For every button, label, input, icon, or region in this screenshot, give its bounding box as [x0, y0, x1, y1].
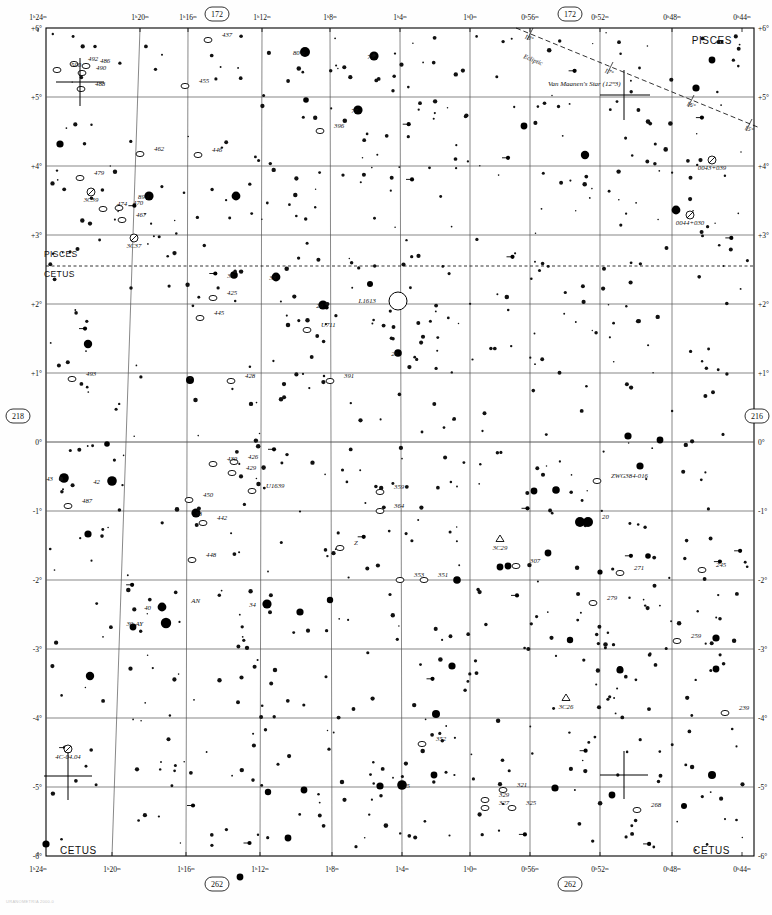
star	[272, 360, 274, 362]
deep-sky-object[interactable]	[316, 128, 324, 133]
deep-sky-object[interactable]	[194, 152, 202, 157]
deep-sky-object[interactable]	[303, 327, 311, 332]
deep-sky-object[interactable]	[82, 63, 90, 68]
deep-sky-object[interactable]	[673, 638, 681, 643]
star	[448, 662, 455, 669]
deep-sky-object[interactable]	[64, 745, 72, 753]
chart-number-top-right[interactable]: 172	[558, 7, 582, 21]
star	[327, 730, 328, 731]
star	[318, 171, 321, 174]
star	[697, 610, 699, 612]
star	[357, 266, 360, 269]
deep-sky-object[interactable]	[248, 488, 256, 493]
deep-sky-object[interactable]	[512, 563, 520, 568]
deep-sky-object[interactable]	[136, 151, 144, 156]
star	[243, 503, 246, 506]
star	[54, 569, 56, 571]
star	[50, 181, 54, 185]
star	[261, 705, 264, 708]
deep-sky-object[interactable]	[389, 292, 407, 310]
deep-sky-object[interactable]	[118, 217, 126, 222]
chart-number-bottom-right[interactable]: 262	[558, 877, 582, 891]
ra-tick-label-top: 1ʰ24ᵐ	[29, 13, 47, 22]
deep-sky-label: ZWG384-016	[611, 472, 649, 479]
star	[481, 430, 483, 432]
deep-sky-object[interactable]	[209, 295, 217, 300]
star	[686, 159, 690, 163]
star	[523, 647, 526, 650]
deep-sky-object[interactable]	[77, 86, 85, 91]
ra-tick-label-bottom: 1ʰ0ᵐ	[463, 865, 477, 874]
star	[657, 219, 659, 221]
deep-sky-object[interactable]	[418, 741, 426, 746]
ra-tick-label-bottom: 0ʰ44ᵐ	[733, 865, 751, 874]
star	[197, 435, 199, 437]
star	[652, 846, 655, 849]
star	[653, 162, 657, 166]
deep-sky-object[interactable]	[481, 797, 489, 802]
deep-sky-object[interactable]	[53, 67, 61, 72]
deep-sky-object[interactable]	[396, 577, 404, 582]
deep-sky-object[interactable]	[698, 567, 706, 572]
deep-sky-object[interactable]	[508, 805, 516, 810]
deep-sky-object[interactable]	[199, 520, 207, 525]
deep-sky-object[interactable]	[708, 156, 716, 164]
star	[719, 797, 723, 801]
chart-number-top[interactable]: 172	[205, 7, 229, 21]
deep-sky-object[interactable]	[228, 470, 236, 475]
deep-sky-label: 245	[716, 561, 727, 568]
deep-sky-object[interactable]	[78, 70, 86, 75]
star	[688, 197, 692, 201]
deep-sky-object[interactable]	[185, 497, 193, 502]
star	[60, 838, 63, 841]
star	[557, 105, 560, 108]
deep-sky-object[interactable]	[130, 234, 138, 242]
star	[144, 45, 148, 49]
star	[292, 294, 296, 298]
deep-sky-object[interactable]	[227, 378, 235, 383]
deep-sky-object[interactable]	[376, 508, 384, 513]
star	[505, 295, 510, 300]
deep-sky-object[interactable]	[209, 461, 217, 466]
deep-sky-label: 442	[217, 514, 228, 521]
deep-sky-object[interactable]	[593, 478, 601, 483]
deep-sky-object[interactable]	[87, 188, 95, 196]
deep-sky-object[interactable]	[336, 545, 344, 550]
star	[689, 350, 692, 353]
deep-sky-object[interactable]	[76, 175, 84, 180]
star	[175, 232, 178, 235]
deep-sky-object[interactable]	[99, 206, 107, 211]
star	[433, 118, 435, 120]
deep-sky-object[interactable]	[376, 489, 384, 494]
star	[672, 206, 681, 215]
star	[178, 621, 180, 623]
deep-sky-object[interactable]	[326, 378, 334, 383]
star	[401, 458, 403, 460]
star	[158, 603, 167, 612]
chart-number-left[interactable]: 218	[6, 409, 30, 423]
star	[425, 718, 427, 720]
deep-sky-object[interactable]	[196, 315, 204, 320]
deep-sky-object[interactable]	[589, 600, 597, 605]
chart-number-right[interactable]: 216	[745, 409, 769, 423]
star	[496, 451, 500, 455]
deep-sky-object[interactable]	[420, 577, 428, 582]
chart-number-bottom[interactable]: 262	[205, 877, 229, 891]
star	[718, 617, 722, 621]
deep-sky-object[interactable]	[188, 557, 196, 562]
star	[582, 760, 584, 762]
star	[302, 703, 305, 706]
deep-sky-object[interactable]	[721, 710, 729, 715]
deep-sky-object[interactable]	[633, 807, 641, 812]
deep-sky-object[interactable]	[686, 211, 694, 219]
deep-sky-object[interactable]	[181, 83, 189, 88]
deep-sky-object[interactable]	[68, 376, 76, 381]
deep-sky-object[interactable]	[616, 570, 624, 575]
star	[372, 782, 375, 785]
deep-sky-object[interactable]	[583, 517, 593, 527]
deep-sky-object[interactable]	[204, 37, 212, 42]
flamsteed-label: 38	[194, 510, 202, 517]
dec-tick-label-right: -3°	[758, 645, 767, 654]
deep-sky-object[interactable]	[64, 503, 72, 508]
deep-sky-object[interactable]	[481, 805, 489, 810]
